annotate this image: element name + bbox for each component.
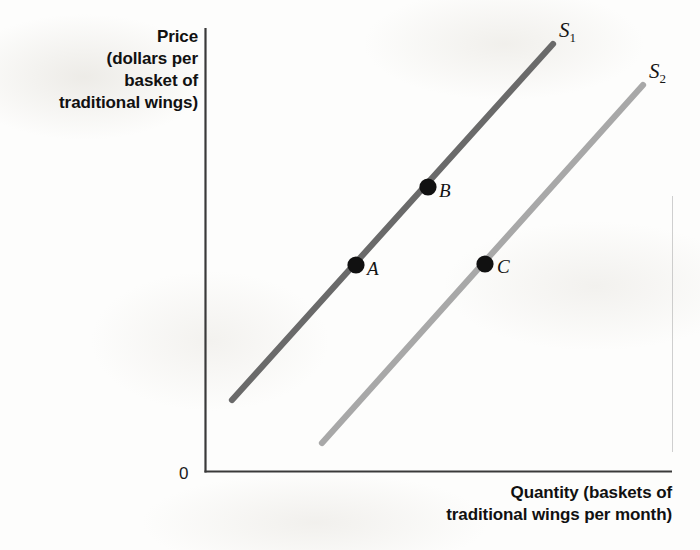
point-label-a: A <box>367 258 379 280</box>
data-point-c <box>476 255 493 272</box>
curve-label-s1-letter: S <box>559 18 570 42</box>
curve-label-s2-letter: S <box>649 59 660 83</box>
supply-curve-figure: Price (dollars per basket of traditional… <box>0 0 700 550</box>
supply-curve-s1 <box>232 44 553 400</box>
scan-page-edge-line <box>672 196 673 452</box>
x-axis-title-line-2: traditional wings per month) <box>232 504 672 526</box>
y-axis-title-line-2: (dollars per <box>0 48 198 70</box>
x-axis-title: Quantity (baskets of traditional wings p… <box>232 482 672 526</box>
curve-label-s1-subscript: 1 <box>570 30 577 45</box>
x-axis-title-line-1: Quantity (baskets of <box>232 482 672 504</box>
curve-label-s2-subscript: 2 <box>660 71 667 86</box>
y-axis-title-line-3: basket of <box>0 70 198 92</box>
point-label-b: B <box>439 180 451 202</box>
y-axis-title: Price (dollars per basket of traditional… <box>0 26 198 114</box>
y-axis-title-line-4: traditional wings) <box>0 92 198 114</box>
y-axis-title-line-1: Price <box>0 26 198 48</box>
origin-label: 0 <box>179 464 188 484</box>
curve-label-s2: S2 <box>649 59 666 87</box>
curve-label-s1: S1 <box>559 18 576 46</box>
data-point-b <box>419 178 436 195</box>
point-label-c: C <box>497 256 510 278</box>
data-point-a <box>347 256 364 273</box>
